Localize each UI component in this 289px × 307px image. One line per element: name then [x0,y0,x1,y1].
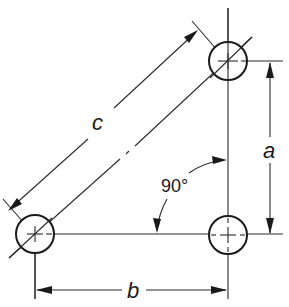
c-extension-top [192,21,217,50]
a-arrow-top-icon [266,62,274,78]
b-label: b [127,278,139,303]
a-arrow-bottom-icon [266,218,274,234]
c-label: c [92,110,103,135]
angle-arrow-top-icon [212,156,227,164]
angle-arrow-bottom-icon [153,218,161,233]
hole-bottom-left [9,215,54,299]
c-extension-bottom [3,199,24,223]
hole-pattern-diagram: c a b 90° [0,0,289,307]
a-label: a [263,138,275,163]
hole-top-right [209,8,252,80]
hole-bottom-right [209,216,247,254]
b-arrow-left-icon [36,286,52,294]
b-arrow-right-icon [211,286,227,294]
angle-label: 90° [161,176,188,196]
